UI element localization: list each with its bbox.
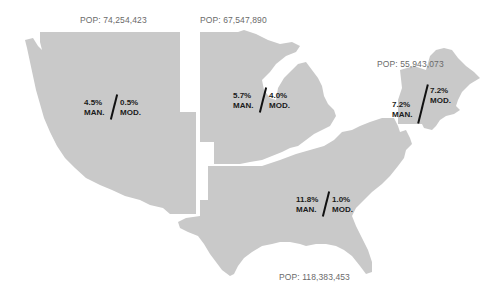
region-northeast-man-value: 7.2%	[392, 100, 412, 110]
region-midwest-mod-label: MOD.	[269, 101, 290, 111]
region-northeast-mod-label: MOD.	[430, 96, 451, 106]
region-midwest-population: POP: 67,547,890	[200, 15, 267, 25]
region-west-man-label: MAN.	[84, 108, 104, 118]
region-northeast-stats: 7.2% MAN. 7.2% MOD.	[392, 86, 472, 126]
region-midwest-stats: 5.7% MAN. 4.0% MOD.	[233, 91, 313, 121]
region-south-population: POP: 118,383,453	[279, 272, 350, 282]
region-west-man: 4.5% MAN.	[84, 98, 104, 118]
region-midwest-man-value: 5.7%	[233, 91, 253, 101]
region-midwest-mod-value: 4.0%	[269, 91, 290, 101]
region-west-mod-label: MOD.	[120, 108, 141, 118]
divider-slash-icon	[110, 94, 118, 120]
region-northeast-man-label: MAN.	[392, 110, 412, 120]
divider-slash-icon	[259, 87, 267, 113]
divider-slash-icon	[322, 191, 330, 217]
region-west-mod: 0.5% MOD.	[120, 98, 141, 118]
region-west-stats: 4.5% MAN. 0.5% MOD.	[84, 98, 164, 128]
region-northeast-man: 7.2% MAN.	[392, 100, 412, 120]
region-south-man-label: MAN.	[296, 205, 318, 215]
region-south-man-value: 11.8%	[296, 195, 318, 205]
us-region-map: POP: 74,254,423 4.5% MAN. 0.5% MOD. POP:…	[0, 0, 502, 300]
region-northeast-mod: 7.2% MOD.	[430, 86, 451, 106]
region-south-mod-value: 1.0%	[332, 195, 353, 205]
region-midwest-man: 5.7% MAN.	[233, 91, 253, 111]
region-northeast-population: POP: 55,943,073	[377, 59, 444, 69]
divider-slash-icon	[417, 84, 429, 123]
map-shapes	[0, 0, 502, 300]
region-south-mod: 1.0% MOD.	[332, 195, 353, 215]
region-south-man: 11.8% MAN.	[296, 195, 318, 215]
region-midwest-mod: 4.0% MOD.	[269, 91, 290, 111]
region-northeast-mod-value: 7.2%	[430, 86, 451, 96]
region-south-stats: 11.8% MAN. 1.0% MOD.	[296, 195, 376, 225]
region-midwest-man-label: MAN.	[233, 101, 253, 111]
region-west-population: POP: 74,254,423	[80, 15, 147, 25]
region-west-man-value: 4.5%	[84, 98, 104, 108]
region-west-mod-value: 0.5%	[120, 98, 141, 108]
region-south-mod-label: MOD.	[332, 205, 353, 215]
